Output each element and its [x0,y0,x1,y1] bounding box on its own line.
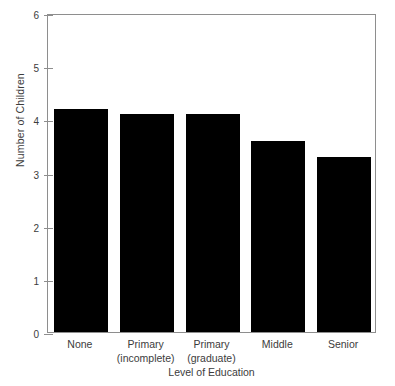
x-axis-tick-label: Senior [310,337,376,351]
x-axis-tick-label-line: Primary [193,338,229,350]
y-axis-tick-label: 1 [33,275,39,288]
y-axis-tick-label: 4 [33,115,39,128]
y-axis-tick: 2 [44,228,53,229]
x-axis-tick-label: Primary(graduate) [179,337,245,365]
y-axis-tick: 4 [44,121,53,122]
bar [54,109,108,332]
bar-chart-figure: Number of Children 0123456 Level of Educ… [0,0,395,386]
y-axis-tick: 1 [44,281,53,282]
y-axis-tick: 0 [44,334,53,335]
x-axis-tick-label-line: Senior [328,338,358,350]
y-axis-tick-label: 3 [33,169,39,182]
bar [120,114,174,332]
x-axis-tick-label: None [47,337,113,351]
y-axis-tick-label: 0 [33,328,39,341]
x-axis-tick-label: Primary(incomplete) [113,337,179,365]
x-axis-tick-label-line: Primary [128,338,164,350]
x-axis-tick-label-line: (graduate) [179,351,245,365]
bar [251,141,305,332]
x-axis-tick-label-line: (incomplete) [113,351,179,365]
x-axis-tick-label-line: None [67,338,92,350]
x-axis-title: Level of Education [47,366,376,378]
y-axis-tick-label: 5 [33,62,39,75]
y-axis-title: Number of Children [14,0,30,290]
x-axis-tick-label: Middle [244,337,310,351]
bar [186,114,240,332]
y-axis-tick: 5 [44,68,53,69]
y-axis-tick-label: 6 [33,9,39,22]
plot-area: 0123456 [47,14,376,333]
bar [317,157,371,332]
y-axis-tick: 6 [44,15,53,16]
y-axis-tick-label: 2 [33,222,39,235]
x-axis-tick-label-line: Middle [262,338,293,350]
y-axis-tick: 3 [44,175,53,176]
